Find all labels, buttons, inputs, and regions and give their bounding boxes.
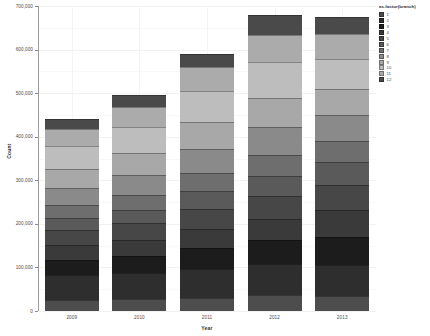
bar-segment[interactable] [315,115,369,141]
bar-segment[interactable] [315,59,369,90]
bar-segment[interactable] [180,173,234,191]
bar-segment[interactable] [112,256,166,273]
y-tick-mark [35,6,38,7]
bar-segment[interactable] [45,169,99,188]
bar-segment[interactable] [248,127,302,155]
x-tick-label-2012: 2012 [241,315,309,321]
bar-segment[interactable] [45,119,99,128]
legend-swatch [379,65,384,70]
legend-items[interactable]: 123456789101112 [379,12,429,83]
bar-segment[interactable] [112,175,166,195]
legend-swatch [379,48,384,53]
bar-segment[interactable] [45,146,99,169]
bar-segment[interactable] [45,188,99,205]
bar-column[interactable] [248,15,302,311]
x-tick-label-2009: 2009 [38,315,106,321]
legend-label: 9 [387,60,389,65]
bar-segment[interactable] [315,210,369,236]
bar-segment[interactable] [45,205,99,218]
bar-segment[interactable] [315,17,369,34]
bar-segment[interactable] [180,67,234,91]
legend-swatch [379,54,384,59]
bar-segment[interactable] [45,260,99,276]
legend-swatch [379,12,384,17]
bar-segment[interactable] [45,129,99,146]
bar-segment[interactable] [315,89,369,114]
legend-swatch [379,42,384,47]
bar-segment[interactable] [180,91,234,122]
bar-segment[interactable] [248,219,302,241]
bar-segment[interactable] [112,195,166,210]
y-tick-mark [35,93,38,94]
bar-segment[interactable] [248,295,302,311]
bar-segment[interactable] [180,229,234,248]
bar-segment[interactable] [112,107,166,127]
y-tick-mark [35,180,38,181]
bar-segment[interactable] [45,245,99,259]
bar-segment[interactable] [45,275,99,299]
bar-segment[interactable] [180,191,234,208]
bar-column[interactable] [180,54,234,311]
y-tick-mark [35,267,38,268]
y-axis-line [38,6,39,311]
y-tick-label: 700,000 [16,4,33,9]
legend-swatch [379,60,384,65]
bar-segment[interactable] [248,155,302,176]
legend: as.factor(branch) 123456789101112 [379,4,429,83]
bar-segment[interactable] [112,127,166,153]
legend-label: 12 [387,77,392,82]
bar-segment[interactable] [180,298,234,312]
legend-title: as.factor(branch) [379,4,429,10]
y-tick-mark [35,224,38,225]
bar-segment[interactable] [112,273,166,299]
bar-column[interactable] [315,17,369,311]
bar-segment[interactable] [112,299,166,311]
bar-segment[interactable] [315,237,369,266]
bar-segment[interactable] [112,210,166,224]
gridline-major [38,311,376,312]
bar-segment[interactable] [112,240,166,256]
bar-segment[interactable] [180,209,234,229]
bar-segment[interactable] [180,149,234,173]
legend-label: 8 [387,54,389,59]
y-tick-label: 0 [30,309,33,314]
bar-segment[interactable] [248,240,302,264]
bar-segment[interactable] [180,54,234,67]
y-tick-label: 500,000 [16,91,33,96]
bar-segment[interactable] [45,218,99,230]
bar-segment[interactable] [248,62,302,98]
bar-segment[interactable] [315,162,369,185]
bars-layer[interactable] [38,6,376,311]
legend-swatch [379,71,384,76]
bar-segment[interactable] [315,265,369,296]
bar-segment[interactable] [315,141,369,163]
y-tick-label: 600,000 [16,47,33,52]
bar-segment[interactable] [315,185,369,210]
bar-segment[interactable] [315,296,369,311]
y-tick-mark [35,50,38,51]
bar-segment[interactable] [248,35,302,62]
bar-segment[interactable] [45,230,99,245]
bar-segment[interactable] [112,153,166,175]
bar-segment[interactable] [248,196,302,219]
bar-segment[interactable] [180,269,234,298]
legend-label: 2 [387,18,389,23]
bar-column[interactable] [45,119,99,311]
chart-root: 0100,000200,000300,000400,000500,000600,… [0,0,430,336]
legend-swatch [379,24,384,29]
y-tick-mark [35,137,38,138]
bar-segment[interactable] [112,223,166,240]
bar-segment[interactable] [180,248,234,269]
bar-segment[interactable] [248,264,302,295]
bar-segment[interactable] [315,34,369,58]
legend-label: 11 [387,71,391,76]
bar-column[interactable] [112,95,166,311]
bar-segment[interactable] [180,122,234,148]
bar-segment[interactable] [112,95,166,106]
legend-item[interactable]: 12 [379,77,429,83]
x-tick-label-2010: 2010 [106,315,174,321]
bar-segment[interactable] [248,15,302,35]
bar-segment[interactable] [248,98,302,128]
bar-segment[interactable] [45,300,99,311]
bar-segment[interactable] [248,176,302,196]
